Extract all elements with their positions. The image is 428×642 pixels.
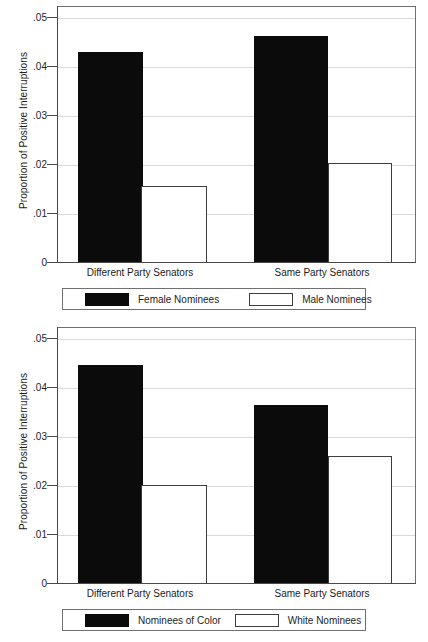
y-tick-label-05: .05 — [19, 12, 47, 23]
y-tick-label-05-b: .05 — [19, 333, 47, 344]
y-tick-label-0: 0 — [25, 257, 47, 268]
y-tick-02-b — [47, 485, 57, 486]
y-tick-label-01-b: .01 — [19, 529, 47, 540]
legend-bottom: Nominees of Color White Nominees — [62, 609, 366, 631]
figure-two-panel-bar-charts: Proportion of Positive Interruptions 0 .… — [0, 0, 428, 642]
legend-swatch-outline-icon — [235, 614, 279, 627]
y-tick-label-0-b: 0 — [25, 578, 47, 589]
bar-female-same-party — [254, 36, 328, 263]
y-tick-02 — [47, 164, 57, 165]
chart-panel-bottom: Proportion of Positive Interruptions 0 .… — [0, 321, 428, 642]
x-axis-line-top — [57, 262, 416, 263]
x-category-label-different-party-top: Different Party Senators — [87, 267, 194, 278]
legend-swatch-filled-icon — [85, 614, 129, 627]
y-tick-label-04-b: .04 — [19, 382, 47, 393]
y-tick-label-02-b: .02 — [19, 480, 47, 491]
x-category-label-same-party-bottom: Same Party Senators — [274, 588, 369, 599]
y-tick-label-02: .02 — [19, 159, 47, 170]
legend-entry-female-nominees[interactable]: Female Nominees — [85, 293, 219, 306]
legend-label-female-nominees: Female Nominees — [138, 294, 219, 305]
y-tick-label-03: .03 — [19, 110, 47, 121]
bar-male-same-party — [328, 163, 392, 263]
x-category-label-same-party-top: Same Party Senators — [274, 267, 369, 278]
bar-white-nominees-same-party — [328, 456, 392, 584]
legend-swatch-filled-icon — [85, 293, 129, 306]
y-axis-line-top — [57, 6, 58, 263]
legend-label-male-nominees: Male Nominees — [302, 294, 371, 305]
x-category-label-different-party-bottom: Different Party Senators — [87, 588, 194, 599]
y-tick-0 — [47, 262, 57, 263]
y-tick-05-b — [47, 338, 57, 339]
y-tick-0-b — [47, 583, 57, 584]
y-axis-line-bottom — [57, 327, 58, 584]
legend-swatch-outline-icon — [249, 293, 293, 306]
y-tick-01 — [47, 213, 57, 214]
chart-panel-top: Proportion of Positive Interruptions 0 .… — [0, 0, 428, 321]
gridline-05 — [57, 18, 415, 19]
y-tick-05 — [47, 17, 57, 18]
y-tick-label-04: .04 — [19, 61, 47, 72]
y-tick-01-b — [47, 534, 57, 535]
y-tick-label-03-b: .03 — [19, 431, 47, 442]
legend-entry-nominees-of-color[interactable]: Nominees of Color — [85, 614, 221, 627]
bar-female-different-party — [78, 52, 143, 263]
gridline-05-b — [57, 339, 415, 340]
plot-area-bottom — [57, 327, 416, 584]
legend-label-nominees-of-color: Nominees of Color — [138, 615, 221, 626]
legend-label-white-nominees: White Nominees — [288, 615, 361, 626]
bar-nominees-of-color-same-party — [254, 405, 328, 584]
y-tick-03-b — [47, 436, 57, 437]
legend-entry-white-nominees[interactable]: White Nominees — [235, 614, 361, 627]
y-tick-label-01: .01 — [19, 208, 47, 219]
plot-area-top — [57, 6, 416, 263]
bar-nominees-of-color-different-party — [78, 365, 143, 584]
legend-entry-male-nominees[interactable]: Male Nominees — [249, 293, 371, 306]
y-tick-03 — [47, 115, 57, 116]
y-tick-04-b — [47, 387, 57, 388]
legend-top: Female Nominees Male Nominees — [62, 288, 366, 310]
y-tick-04 — [47, 66, 57, 67]
bar-male-different-party — [141, 186, 207, 263]
bar-white-nominees-different-party — [141, 485, 207, 584]
x-axis-line-bottom — [57, 583, 416, 584]
